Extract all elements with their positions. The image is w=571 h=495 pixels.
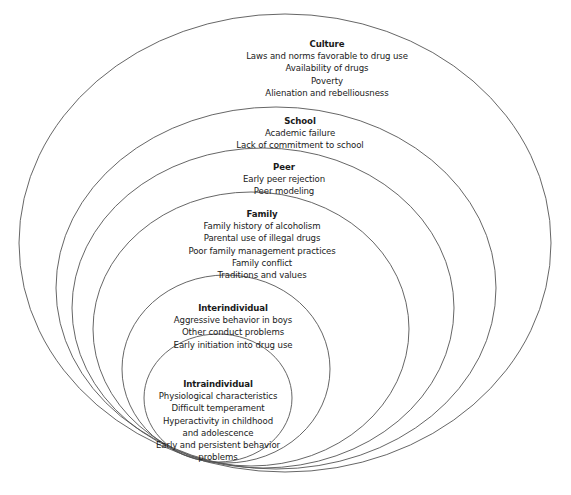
level-title: School: [236, 115, 363, 127]
level-item: Academic failure: [236, 127, 363, 139]
level-item: Difficult temperament: [156, 402, 280, 414]
level-item: and adolescence: [156, 427, 280, 439]
level-item: Laws and norms favorable to drug use: [246, 50, 408, 62]
level-item: Other conduct problems: [174, 326, 293, 338]
level-title: Interindividual: [174, 302, 293, 314]
level-item: Early and persistent behavior: [156, 439, 280, 451]
level-item: problems: [156, 451, 280, 463]
level-item: Peer modeling: [243, 185, 325, 197]
level-item: Early initiation into drug use: [174, 339, 293, 351]
level-culture: Culture Laws and norms favorable to drug…: [246, 38, 408, 99]
level-item: Availability of drugs: [246, 62, 408, 74]
level-peer: Peer Early peer rejection Peer modeling: [243, 161, 325, 198]
level-intraindividual: Intraindividual Physiological characteri…: [156, 378, 280, 463]
level-item: Alienation and rebelliousness: [246, 87, 408, 99]
level-title: Culture: [246, 38, 408, 50]
level-item: Early peer rejection: [243, 173, 325, 185]
level-title: Family: [188, 208, 335, 220]
level-item: Aggressive behavior in boys: [174, 314, 293, 326]
level-item: Family conflict: [188, 257, 335, 269]
level-item: Family history of alcoholism: [188, 220, 335, 232]
level-school: School Academic failure Lack of commitme…: [236, 115, 363, 152]
level-item: Physiological characteristics: [156, 390, 280, 402]
level-item: Poor family management practices: [188, 245, 335, 257]
nested-risk-factor-diagram: Culture Laws and norms favorable to drug…: [0, 0, 571, 495]
level-item: Lack of commitment to school: [236, 139, 363, 151]
level-item: Hyperactivity in childhood: [156, 415, 280, 427]
level-family: Family Family history of alcoholism Pare…: [188, 208, 335, 281]
level-interindividual: Interindividual Aggressive behavior in b…: [174, 302, 293, 351]
level-item: Parental use of illegal drugs: [188, 232, 335, 244]
level-title: Peer: [243, 161, 325, 173]
level-item: Poverty: [246, 75, 408, 87]
level-item: Traditions and values: [188, 269, 335, 281]
level-title: Intraindividual: [156, 378, 280, 390]
